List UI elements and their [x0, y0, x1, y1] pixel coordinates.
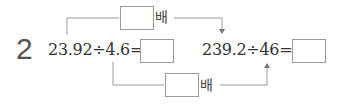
- left-expression: 23.92÷4.6=: [48, 40, 143, 60]
- problem-number: 2: [16, 34, 33, 64]
- bottom-multiplier-unit: 배: [200, 76, 213, 94]
- arrow-up-icon: [264, 63, 270, 68]
- top-multiplier-box[interactable]: [120, 6, 154, 30]
- bottom-multiplier-box[interactable]: [165, 73, 199, 97]
- left-answer-box[interactable]: [140, 39, 174, 63]
- right-expression: 239.2÷46=: [202, 40, 292, 60]
- top-multiplier-unit: 배: [155, 8, 168, 26]
- arrow-down-icon: [219, 29, 225, 34]
- right-answer-box[interactable]: [292, 39, 326, 63]
